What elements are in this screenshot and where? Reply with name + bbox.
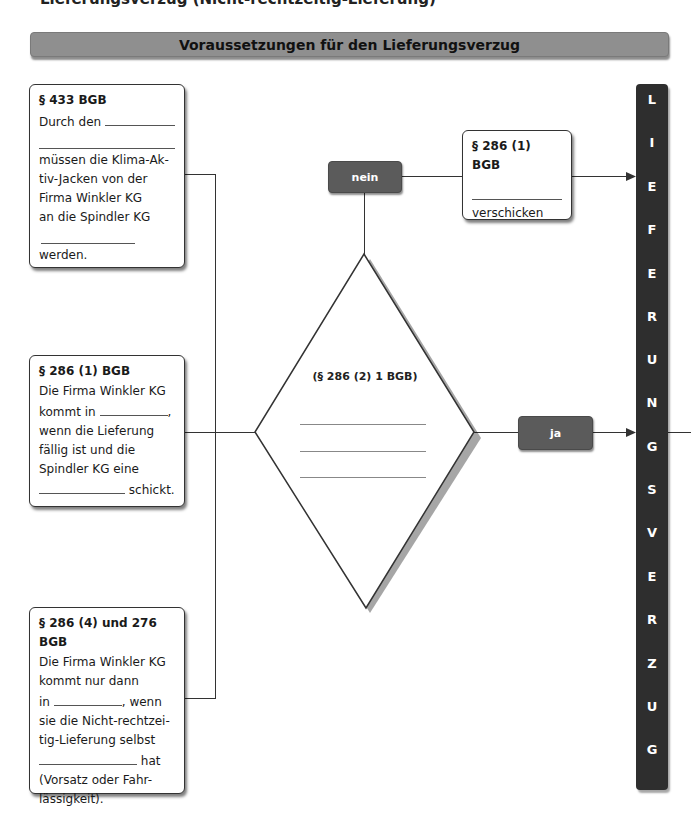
bar-letter: E xyxy=(636,266,668,281)
decision-diamond xyxy=(250,250,482,616)
connector-nein-to-card xyxy=(400,176,462,177)
blank-field[interactable] xyxy=(300,451,426,452)
blank-field[interactable] xyxy=(300,424,426,425)
blank-field[interactable] xyxy=(472,198,562,200)
card-286-1-bgb: § 286 (1) BGB Die Firma Winkler KG kommt… xyxy=(29,355,185,507)
card-text: fällig ist und die xyxy=(39,441,175,460)
card-text: sie die Nicht-rechtzei- xyxy=(39,712,175,731)
blank-field[interactable] xyxy=(300,477,426,478)
card-text: müssen die Klima-Ak- xyxy=(39,151,175,170)
card-text: Durch den xyxy=(39,115,101,129)
card-text: , wenn xyxy=(122,695,162,709)
bar-letter: V xyxy=(636,525,668,540)
bar-letter: U xyxy=(636,699,668,714)
bar-letter: L xyxy=(636,92,668,107)
blank-field[interactable] xyxy=(39,479,125,494)
card-text: , xyxy=(168,405,172,419)
connector-ja-to-bar xyxy=(591,432,630,433)
card-text: Die Firma Winkler KG xyxy=(39,382,175,401)
bar-letter: U xyxy=(636,352,668,367)
connector-card2-h xyxy=(185,432,256,433)
blank-field[interactable] xyxy=(41,227,135,244)
connector-card1-h xyxy=(185,174,216,175)
bar-letter: E xyxy=(636,179,668,194)
branch-ja: ja xyxy=(518,416,593,450)
branch-ja-label: ja xyxy=(550,427,561,440)
card-title: § 286 (4) und 276 BGB xyxy=(39,614,175,652)
blank-field[interactable] xyxy=(39,132,175,149)
card-text: tig-Lieferung selbst xyxy=(39,731,175,750)
card-text: werden. xyxy=(39,246,175,265)
card-text: tiv-Jacken von der xyxy=(39,170,175,189)
cut-off-heading: Lieferungsverzug (Nicht-rechtzeitig-Lief… xyxy=(40,0,436,8)
card-text: wenn die Lieferung xyxy=(39,422,175,441)
blank-field[interactable] xyxy=(105,111,175,126)
card-text: hat xyxy=(141,754,161,768)
bar-letter: R xyxy=(636,309,668,324)
bar-letter: R xyxy=(636,612,668,627)
card-text: lässigkeit). xyxy=(39,790,175,809)
bar-letter: S xyxy=(636,482,668,497)
decision-label: (§ 286 (2) 1 BGB) xyxy=(300,370,430,383)
card-title: § 286 (1) BGB xyxy=(39,362,175,381)
branch-nein-label: nein xyxy=(352,171,379,184)
section-header-title: Voraussetzungen für den Lieferungsverzug xyxy=(179,37,520,53)
card-title: § 286 (1) BGB xyxy=(472,137,562,175)
card-text: an die Spindler KG xyxy=(39,208,175,227)
bar-letter: G xyxy=(636,439,668,454)
card-title: § 433 BGB xyxy=(39,91,175,110)
bar-letter: G xyxy=(636,742,668,757)
card-286-1-bgb-right: § 286 (1) BGB verschicken xyxy=(462,130,572,220)
card-text: in xyxy=(39,695,50,709)
connector-bar-out xyxy=(668,432,691,433)
card-286-4-276-bgb: § 286 (4) und 276 BGB Die Firma Winkler … xyxy=(29,607,185,794)
connector-bus-v xyxy=(215,174,216,699)
card-text: kommt in xyxy=(39,405,96,419)
bar-letter: E xyxy=(636,569,668,584)
arrow-head-icon xyxy=(626,172,636,181)
connector-card-to-bar xyxy=(572,176,630,177)
branch-nein: nein xyxy=(328,161,402,193)
bar-letter: F xyxy=(636,222,668,237)
connector-diamond-up xyxy=(364,191,365,255)
bar-letter: Z xyxy=(636,656,668,671)
connector-card3-h xyxy=(185,698,216,699)
card-text: (Vorsatz oder Fahr- xyxy=(39,771,175,790)
blank-field[interactable] xyxy=(39,750,137,765)
card-text: schickt. xyxy=(129,483,175,497)
card-text: Firma Winkler KG xyxy=(39,189,175,208)
card-433-bgb: § 433 BGB Durch den müssen die Klima-Ak-… xyxy=(29,84,185,268)
blank-field[interactable] xyxy=(54,691,122,706)
arrow-head-icon xyxy=(626,428,636,437)
card-text: verschicken xyxy=(472,204,562,223)
bar-letter: I xyxy=(636,135,668,150)
blank-field[interactable] xyxy=(100,401,168,416)
section-header: Voraussetzungen für den Lieferungsverzug xyxy=(30,32,669,57)
lieferungsverzug-bar: L I E F E R U N G S V E R Z U G xyxy=(636,84,668,790)
card-text: Spindler KG eine xyxy=(39,460,175,479)
bar-letter: N xyxy=(636,395,668,410)
card-text: kommt nur dann xyxy=(39,672,175,691)
card-text: Die Firma Winkler KG xyxy=(39,653,175,672)
